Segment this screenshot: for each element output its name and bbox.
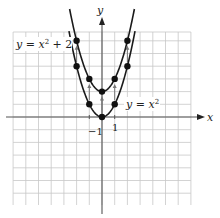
tick-label-neg1: −1	[88, 126, 103, 137]
y-axis-arrow-icon	[99, 17, 105, 25]
data-point	[112, 101, 118, 107]
curve-label-x2-plus-2: y = x2 + 2	[15, 38, 72, 51]
data-point	[73, 63, 79, 69]
data-point	[124, 63, 130, 69]
arrow-head-icon	[113, 84, 117, 88]
data-point	[73, 38, 79, 44]
arrow-head-icon	[87, 84, 91, 88]
x-axis-label: x	[207, 111, 214, 124]
arrow-head-icon	[100, 97, 104, 101]
data-point	[99, 114, 105, 120]
x-axis-arrow-icon	[197, 114, 205, 120]
data-point	[112, 76, 118, 82]
data-point	[124, 38, 130, 44]
curve-label-x2: y = x2	[125, 98, 159, 111]
data-point	[86, 101, 92, 107]
data-point	[99, 88, 105, 94]
y-axis-label: y	[96, 4, 104, 17]
coordinate-plane: y x −1 1 y = x2 + 2 y = x2	[0, 0, 220, 218]
tick-label-pos1: 1	[112, 122, 118, 133]
data-point	[86, 76, 92, 82]
